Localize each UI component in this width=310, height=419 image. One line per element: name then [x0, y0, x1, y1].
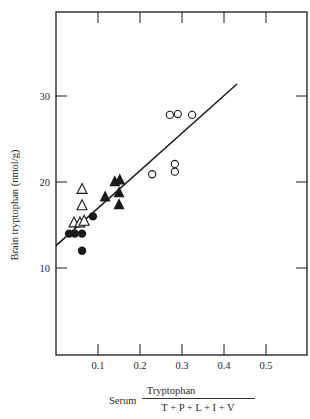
x-tick-label: 0.1	[91, 360, 104, 371]
open-circle-marker	[174, 110, 181, 117]
filled-circle-marker	[78, 229, 86, 237]
x-axis-title-prefix: Serum	[109, 395, 136, 406]
scatter-chart: 0.10.20.30.40.5102030 Brain tryptophan (…	[0, 0, 310, 419]
filled-triangle-marker	[114, 198, 125, 209]
x-tick-label: 0.2	[133, 360, 146, 371]
x-tick-label: 0.3	[175, 360, 188, 371]
series-open-triangles	[69, 183, 89, 227]
x-axis-title: Serum Tryptophan T + P + L + I + V	[109, 385, 255, 413]
axis-ticks	[56, 12, 307, 355]
plot-border	[56, 12, 307, 355]
x-tick-label: 0.4	[217, 360, 231, 371]
y-tick-label: 20	[40, 177, 51, 188]
open-circle-marker	[166, 111, 173, 118]
open-circle-marker	[149, 171, 156, 178]
x-tick-label: 0.5	[259, 360, 272, 371]
open-circle-marker	[171, 168, 178, 175]
open-circle-marker	[188, 111, 195, 118]
filled-circle-marker	[78, 247, 86, 255]
open-circle-marker	[171, 160, 178, 167]
x-axis-title-denominator: T + P + L + I + V	[161, 402, 235, 413]
y-tick-label: 10	[40, 263, 51, 274]
x-axis-title-numerator: Tryptophan	[147, 385, 196, 396]
data-points	[65, 110, 196, 255]
open-triangle-marker	[77, 200, 87, 210]
plot-frame	[56, 12, 307, 355]
series-open-circles	[149, 110, 196, 177]
open-triangle-marker	[77, 183, 87, 193]
y-axis-title: Brain tryptophan (nmol/g)	[9, 149, 21, 260]
y-tick-label: 30	[40, 91, 51, 102]
filled-triangle-marker	[100, 191, 111, 202]
filled-circle-marker	[89, 212, 97, 220]
